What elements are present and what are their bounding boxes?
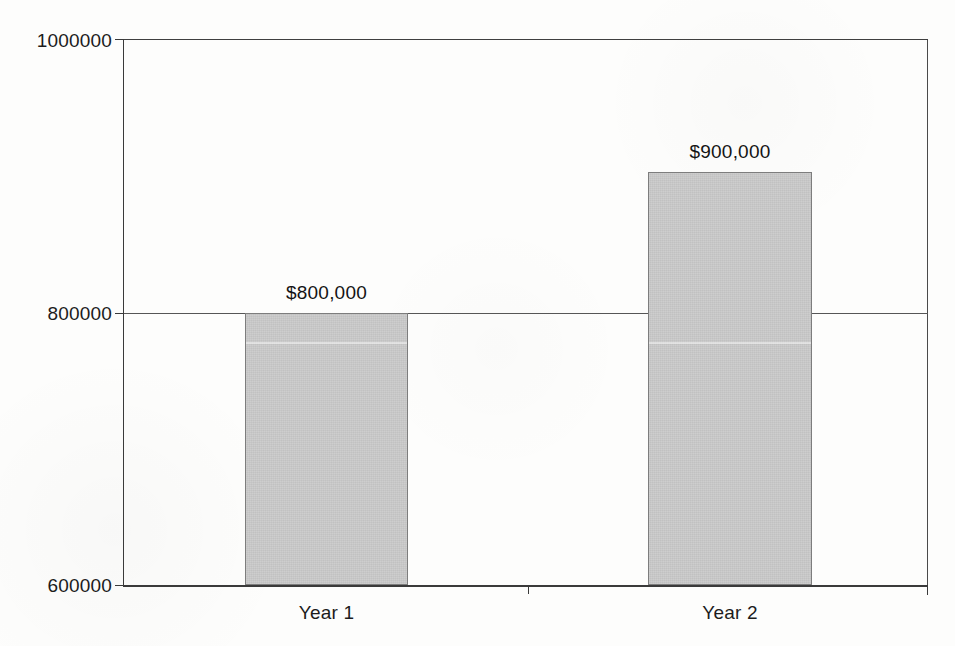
y-tick-mark-800000 — [115, 313, 124, 314]
bar-year-1[interactable] — [245, 313, 408, 585]
bar-year-2[interactable] — [648, 172, 812, 585]
bar-sheen — [649, 342, 811, 344]
x-axis-label-year-2: Year 2 — [648, 603, 812, 622]
x-axis-line — [123, 585, 928, 587]
x-tick-mark-category-divider — [528, 585, 529, 594]
x-axis-label-year-1: Year 1 — [245, 603, 408, 622]
x-tick-mark-end — [927, 585, 928, 595]
y-axis-tick-label-1000000: 1000000 — [37, 31, 112, 50]
data-label-year-2: $900,000 — [648, 142, 812, 161]
y-tick-mark-1000000 — [115, 39, 124, 40]
y-axis-tick-label-600000: 600000 — [47, 576, 112, 595]
gridline-1000000 — [123, 39, 928, 40]
data-label-year-1: $800,000 — [245, 283, 408, 302]
bar-sheen — [246, 342, 407, 344]
bar-chart: 1000000 800000 600000 $800,000 $900,000 … — [0, 0, 955, 646]
y-tick-mark-600000 — [115, 585, 124, 586]
y-axis-tick-label-800000: 800000 — [47, 304, 112, 323]
